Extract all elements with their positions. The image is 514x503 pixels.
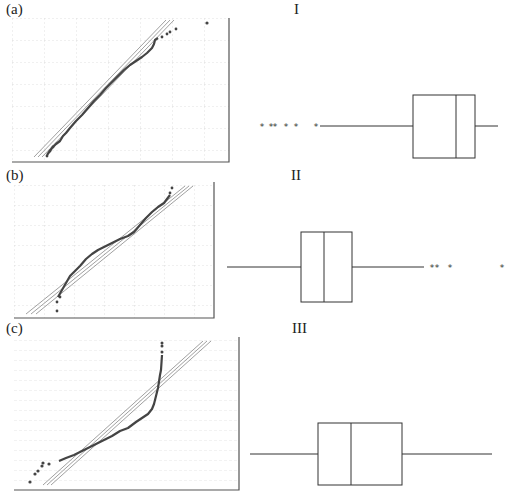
boxplot-i-outliers: *** ***: [260, 122, 319, 132]
svg-text:*: *: [273, 122, 278, 132]
svg-text:*: *: [284, 122, 289, 132]
svg-text:*: *: [500, 263, 505, 273]
svg-text:*: *: [435, 263, 440, 273]
boxplot-ii: [227, 232, 424, 302]
qq-plot-c: [14, 337, 239, 490]
boxplot-ii-outliers: ****: [430, 263, 505, 273]
boxplot-iii: [250, 423, 492, 485]
figure-canvas: *** *** ****: [0, 0, 514, 503]
svg-text:*: *: [314, 122, 319, 132]
boxplot-i: [320, 95, 498, 158]
qq-plot-b: [14, 182, 214, 318]
qq-plot-a: [12, 18, 229, 162]
svg-text:*: *: [260, 122, 265, 132]
svg-text:*: *: [448, 263, 453, 273]
svg-text:*: *: [294, 122, 299, 132]
